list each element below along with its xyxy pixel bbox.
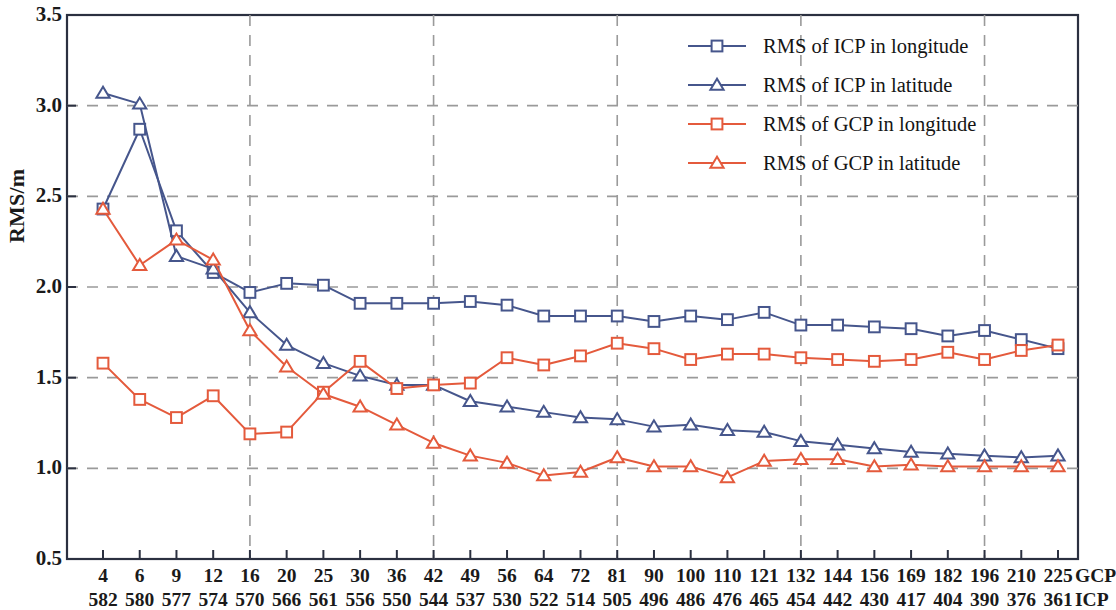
data-point-marker xyxy=(1016,345,1027,356)
y-axis-tick-label: 2.5 xyxy=(18,185,62,206)
data-point-marker xyxy=(502,352,513,363)
y-axis-tick-label: 2.0 xyxy=(18,276,62,297)
data-point-marker xyxy=(171,412,182,423)
x-axis-unit-label-icp: ICP xyxy=(1075,590,1109,610)
data-point-marker xyxy=(281,278,292,289)
data-point-marker xyxy=(281,427,292,438)
data-point-marker xyxy=(318,280,329,291)
data-point-marker xyxy=(612,311,623,322)
data-point-marker xyxy=(245,428,256,439)
data-point-marker xyxy=(649,316,660,327)
data-point-marker xyxy=(612,338,623,349)
data-point-marker xyxy=(538,360,549,371)
data-point-marker xyxy=(465,378,476,389)
data-point-marker xyxy=(465,296,476,307)
data-point-marker xyxy=(208,390,219,401)
data-point-marker xyxy=(538,311,549,322)
y-axis-tick-label: 0.5 xyxy=(18,548,62,569)
data-point-marker xyxy=(906,354,917,365)
data-point-marker xyxy=(134,394,145,405)
data-point-marker xyxy=(575,311,586,322)
y-axis-tick-label: 1.0 xyxy=(18,457,62,478)
data-point-marker xyxy=(906,323,917,334)
data-point-marker xyxy=(391,298,402,309)
data-point-marker xyxy=(134,124,145,135)
data-point-marker xyxy=(1016,334,1027,345)
x-axis-unit-label-gcp: GCP xyxy=(1075,566,1116,586)
data-point-marker xyxy=(979,354,990,365)
data-point-marker xyxy=(355,298,366,309)
data-point-marker xyxy=(502,300,513,311)
data-point-marker xyxy=(1053,340,1064,351)
data-point-marker xyxy=(98,358,109,369)
data-point-marker xyxy=(869,356,880,367)
data-point-marker xyxy=(759,307,770,318)
legend-label: RMS of GCP in latitude xyxy=(763,153,960,174)
legend-label: RMS of ICP in latitude xyxy=(763,75,952,96)
data-point-marker xyxy=(942,331,953,342)
legend-label: RMS of GCP in longitude xyxy=(763,114,976,135)
data-point-marker xyxy=(355,356,366,367)
data-point-marker xyxy=(575,351,586,362)
data-point-marker xyxy=(722,314,733,325)
data-point-marker xyxy=(722,349,733,360)
data-point-marker xyxy=(685,311,696,322)
data-point-marker xyxy=(245,287,256,298)
data-point-marker xyxy=(759,349,770,360)
data-point-marker xyxy=(832,320,843,331)
y-axis-tick-label: 1.5 xyxy=(18,367,62,388)
data-point-marker xyxy=(979,325,990,336)
data-point-marker xyxy=(832,354,843,365)
data-point-marker xyxy=(942,347,953,358)
data-point-marker xyxy=(428,298,439,309)
data-point-marker xyxy=(795,320,806,331)
y-axis-tick-labels: 0.51.01.52.02.53.03.5 xyxy=(0,0,62,604)
y-axis-tick-label: 3.0 xyxy=(18,95,62,116)
legend-label: RMS of ICP in longitude xyxy=(763,36,968,57)
y-axis-tick-label: 3.5 xyxy=(18,4,62,25)
data-point-marker xyxy=(391,383,402,394)
data-point-marker xyxy=(428,380,439,391)
data-point-marker xyxy=(685,354,696,365)
data-point-marker xyxy=(869,321,880,332)
data-point-marker xyxy=(795,352,806,363)
data-point-marker xyxy=(649,343,660,354)
